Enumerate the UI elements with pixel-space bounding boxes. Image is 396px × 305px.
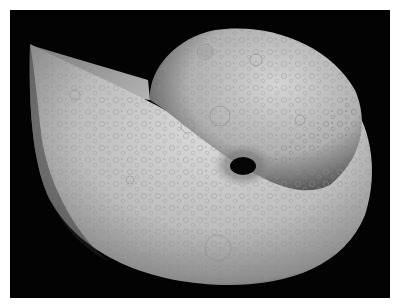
- shell-image: [10, 10, 390, 298]
- photo-frame: Cratered nautilus-like shell rendered in…: [10, 10, 390, 298]
- umbilicus-hole: [230, 157, 256, 175]
